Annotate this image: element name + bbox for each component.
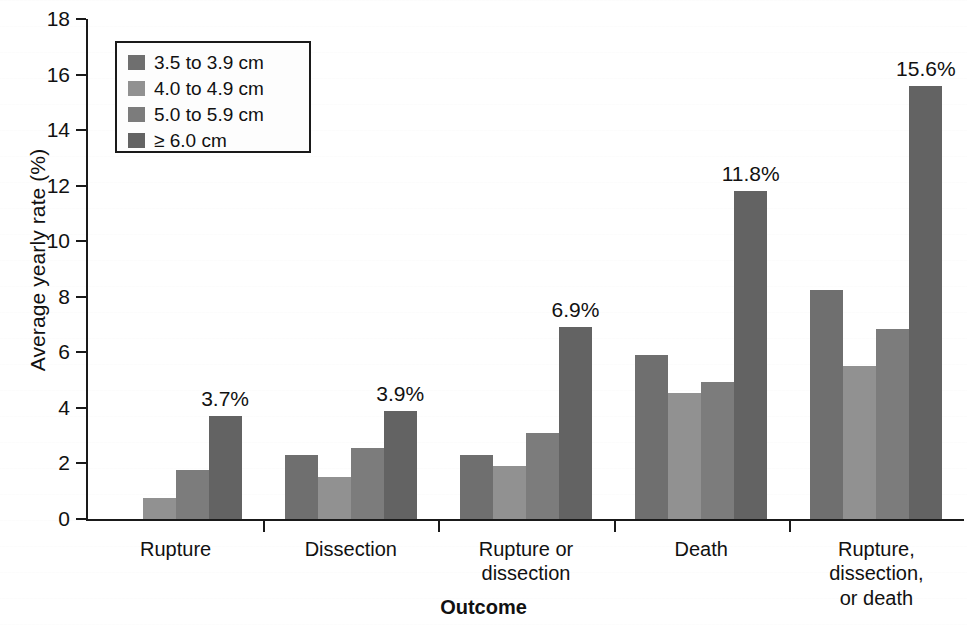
bar — [143, 498, 176, 519]
y-tick-mark — [76, 18, 86, 20]
bar — [384, 411, 417, 519]
bar-value-label: 11.8% — [706, 162, 796, 186]
y-tick-label: 6 — [10, 341, 70, 362]
legend-item: 4.0 to 4.9 cm — [128, 76, 309, 101]
legend-item-label: 5.0 to 5.9 cm — [154, 105, 264, 124]
bar — [559, 327, 592, 519]
bar — [668, 393, 701, 519]
bar-group — [789, 19, 964, 519]
bar-group — [614, 19, 789, 519]
y-tick-label: 10 — [10, 230, 70, 251]
x-tick-mark — [614, 521, 616, 532]
bar — [176, 470, 209, 519]
y-tick-label: 2 — [10, 452, 70, 473]
bar — [635, 355, 668, 519]
bar — [876, 329, 909, 519]
legend-item: ≥ 6.0 cm — [128, 128, 309, 153]
legend-item: 5.0 to 5.9 cm — [128, 102, 309, 127]
y-tick-mark — [76, 351, 86, 353]
bar-value-label: 3.7% — [180, 387, 270, 411]
x-category-label-line: dissection — [438, 561, 613, 585]
bar — [810, 290, 843, 519]
legend-item: 3.5 to 3.9 cm — [128, 50, 309, 75]
y-tick-mark — [76, 462, 86, 464]
bar — [493, 466, 526, 519]
y-tick-mark — [76, 185, 86, 187]
y-tick-mark — [76, 518, 86, 520]
legend: 3.5 to 3.9 cm 4.0 to 4.9 cm 5.0 to 5.9 c… — [115, 41, 311, 153]
bar — [701, 382, 734, 520]
y-tick-mark — [76, 129, 86, 131]
y-tick-label: 16 — [10, 64, 70, 85]
x-category-label-line: dissection, — [789, 561, 964, 585]
y-tick-label: 4 — [10, 397, 70, 418]
bar — [526, 433, 559, 519]
bar — [351, 448, 384, 519]
legend-swatch-icon — [128, 81, 145, 96]
bar — [734, 191, 767, 519]
y-tick-label: 0 — [10, 508, 70, 529]
y-tick-label: 8 — [10, 286, 70, 307]
legend-swatch-icon — [128, 133, 145, 148]
y-tick-mark — [76, 240, 86, 242]
x-category-label: Rupture ordissection — [438, 537, 613, 586]
bar — [318, 477, 351, 519]
bar — [843, 366, 876, 519]
y-tick-mark — [76, 407, 86, 409]
legend-swatch-icon — [128, 107, 145, 122]
x-category-label: Rupture — [88, 537, 263, 561]
legend-item-label: 4.0 to 4.9 cm — [154, 79, 264, 98]
legend-item-label: 3.5 to 3.9 cm — [154, 53, 264, 72]
x-category-label-line: Rupture, — [789, 537, 964, 561]
y-tick-label: 12 — [10, 175, 70, 196]
legend-item-label: ≥ 6.0 cm — [154, 131, 227, 150]
bar — [285, 455, 318, 519]
x-axis-line — [86, 519, 964, 521]
x-tick-mark — [789, 521, 791, 532]
x-category-label: Death — [614, 537, 789, 561]
bar-value-label: 6.9% — [531, 298, 621, 322]
x-category-label: Dissection — [263, 537, 438, 561]
bar — [909, 86, 942, 519]
y-tick-label: 18 — [10, 8, 70, 29]
x-category-label-line: Death — [614, 537, 789, 561]
bar — [209, 416, 242, 519]
x-axis-title: Outcome — [0, 596, 967, 619]
y-tick-label: 14 — [10, 119, 70, 140]
bar-chart-figure: Average yearly rate (%) 024681012141618 … — [0, 0, 967, 625]
bar-value-label: 3.9% — [355, 382, 445, 406]
x-category-label-line: Dissection — [263, 537, 438, 561]
legend-swatch-icon — [128, 55, 145, 70]
y-tick-mark — [76, 296, 86, 298]
x-tick-mark — [263, 521, 265, 532]
x-category-label-line: Rupture — [88, 537, 263, 561]
bar — [460, 455, 493, 519]
x-tick-mark — [438, 521, 440, 532]
x-category-label-line: Rupture or — [438, 537, 613, 561]
bar-group — [438, 19, 613, 519]
y-tick-mark — [76, 74, 86, 76]
bar-value-label: 15.6% — [881, 57, 967, 81]
